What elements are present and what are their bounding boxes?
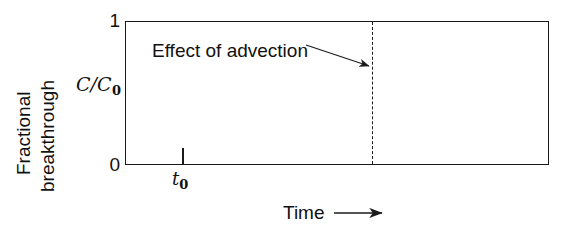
figure-container: Fractional breakthrough C/C0 1 0 Effect … — [0, 0, 567, 237]
y-axis-variable-label: C/C0 — [76, 75, 121, 97]
x-axis-tick-t0 — [182, 148, 184, 165]
y-axis-variable-text: C/C — [76, 73, 111, 95]
annotation-arrow-icon — [305, 42, 377, 76]
x-axis-tick-subscript: 0 — [179, 177, 188, 192]
x-axis-title: Time — [283, 203, 392, 222]
x-axis-title-text: Time — [283, 203, 325, 222]
y-axis-tick-label-bottom: 0 — [98, 155, 120, 174]
y-axis-title-line-1: Fractional — [14, 92, 33, 175]
x-axis-arrow-icon — [334, 206, 392, 220]
annotation-label-effect-of-advection: Effect of advection — [152, 41, 308, 60]
y-axis-tick-label-top: 1 — [98, 11, 120, 30]
y-axis-title-line-2: breakthrough — [38, 80, 57, 192]
y-axis-variable-subscript: 0 — [112, 83, 121, 98]
x-axis-tick-label-t0: t0 — [172, 170, 188, 191]
